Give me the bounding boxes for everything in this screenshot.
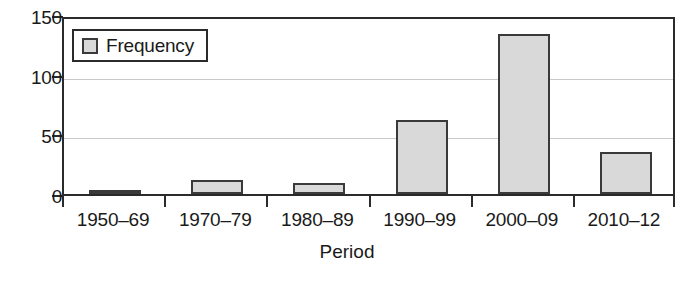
legend-label-frequency: Frequency (106, 36, 194, 55)
x-tick-label: 1990–99 (383, 209, 456, 230)
x-tick-mark (266, 196, 268, 207)
x-tick-mark (573, 196, 575, 207)
legend-swatch-frequency (82, 38, 98, 54)
plot-area: Frequency (62, 17, 675, 196)
bar[interactable] (498, 34, 550, 194)
bar[interactable] (396, 120, 448, 194)
x-tick-mark (471, 196, 473, 207)
chart-legend: Frequency (72, 29, 208, 62)
bar-slot (473, 19, 575, 194)
y-tick-label-100: 100 (16, 67, 62, 86)
x-tick-mark (369, 196, 371, 207)
x-axis-title: Period (0, 241, 694, 263)
x-tick-label: 2000–09 (485, 209, 558, 230)
y-tick-label-150: 150 (16, 8, 62, 27)
bar-slot (371, 19, 473, 194)
x-tick-label: 2010–12 (588, 209, 661, 230)
x-tick-label: 1980–89 (281, 209, 354, 230)
bar[interactable] (600, 152, 652, 194)
bar[interactable] (191, 180, 243, 194)
bar-slot (268, 19, 370, 194)
y-tick-label-0: 0 (16, 187, 62, 206)
x-tick-label: 1970–79 (179, 209, 252, 230)
frequency-by-period-bar-chart: 050100150 Frequency 1950–691970–791980–8… (0, 0, 694, 284)
bar[interactable] (89, 190, 141, 194)
bar-slot (575, 19, 677, 194)
x-tick-mark (62, 196, 64, 207)
x-tick-mark (164, 196, 166, 207)
x-tick-label: 1950–69 (77, 209, 150, 230)
y-tick-label-50: 50 (16, 127, 62, 146)
bar[interactable] (293, 183, 345, 194)
x-tick-mark (673, 196, 675, 207)
x-axis: 1950–691970–791980–891990–992000–092010–… (62, 196, 675, 242)
